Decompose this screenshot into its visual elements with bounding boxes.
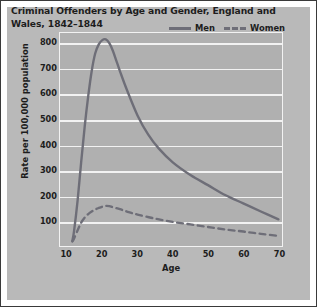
y-tick-label: 100 — [13, 216, 57, 226]
x-tick-label: 70 — [264, 249, 294, 259]
x-tick-label: 30 — [122, 249, 152, 259]
chart-figure: Criminal Offenders by Age and Gender, En… — [0, 0, 317, 307]
x-tick-label: 50 — [193, 249, 223, 259]
x-axis-label: Age — [59, 263, 283, 273]
series-line-women — [72, 206, 278, 242]
legend-line-dashed-icon — [224, 27, 246, 30]
x-tick-label: 60 — [229, 249, 259, 259]
series-line-men — [72, 39, 278, 241]
x-tick-label: 20 — [87, 249, 117, 259]
legend-line-solid-icon — [169, 27, 191, 30]
plot-area — [59, 32, 283, 247]
y-tick-label: 200 — [13, 191, 57, 201]
y-axis-label: Rate per 100,000 population — [20, 31, 30, 191]
x-tick-label: 10 — [51, 249, 81, 259]
y-axis-ticks: 100200300400500600700800 — [7, 32, 57, 247]
series-layer — [60, 33, 282, 246]
x-tick-label: 40 — [158, 249, 188, 259]
x-axis-ticks: 10203040506070 — [59, 249, 283, 263]
